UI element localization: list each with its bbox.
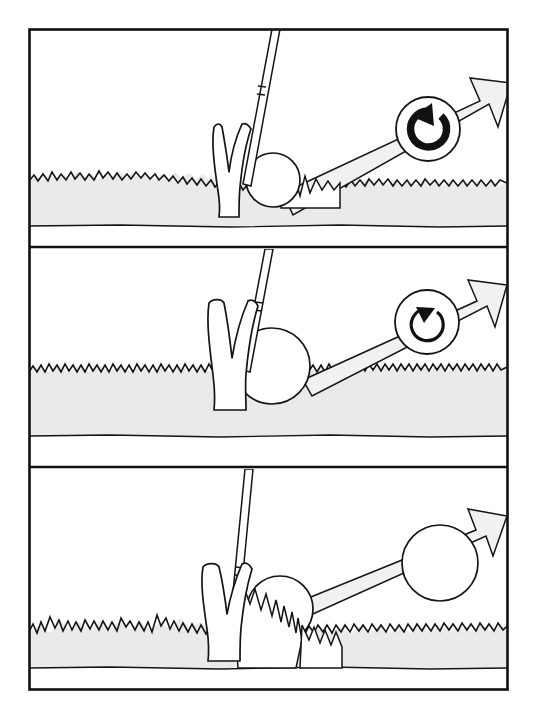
three-panel-golf-illustration bbox=[0, 0, 536, 716]
panel-2-spin-circle bbox=[395, 290, 459, 354]
illustration-figure: Golf ball lie and backspin comparison Th… bbox=[0, 0, 536, 716]
panel-3-golf-ball-launched bbox=[402, 525, 478, 601]
